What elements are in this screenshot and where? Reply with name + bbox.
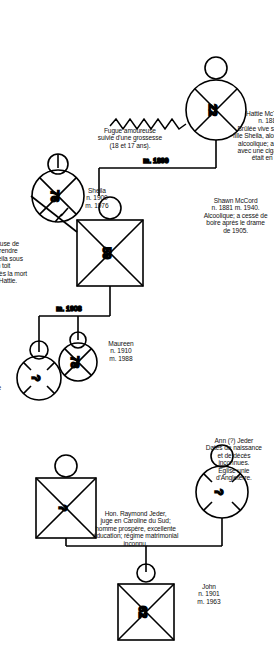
annotation-refus: Refuse de reprendre Sheila sous son toit… — [0, 240, 70, 284]
genogram-canvas: 22 59 m. 1899 — [0, 0, 274, 646]
marriage-label-1899: m. 1899 — [143, 157, 168, 164]
node-sheila-age: 76 — [49, 190, 61, 202]
node-john[interactable] — [118, 564, 174, 640]
node-second-wife-label: ? — [30, 375, 42, 382]
annotation-john: John n. 1901 m. 1963 — [181, 583, 237, 605]
marriage-label-1908: m. 1908 — [56, 305, 81, 312]
genogram-svg: 22 59 m. 1899 — [0, 0, 274, 646]
annotation-fugue: Fugue amoureuse suivie d'une grossesse (… — [80, 127, 180, 149]
annotation-sheila: Sheila n. 1900 m. 1976 — [69, 187, 125, 209]
annotation-maureen: Maureen n. 1910 m. 1988 — [92, 340, 150, 362]
node-maureen-age: 78 — [69, 356, 81, 368]
annotation-hattie: Hattie McTeague McCord n. 1883 m. 1905. … — [202, 110, 274, 162]
node-ann-label: ? — [213, 489, 225, 496]
node-john-age: 62 — [137, 606, 149, 618]
rotated-diagram-layer: 22 59 m. 1899 — [0, 0, 274, 646]
annotation-raymond: Hon. Raymond Jeder, juge en Caroline du … — [66, 510, 206, 547]
annotation-shawn: Shawn McCord n. 1881 m. 1940. Alcoolique… — [176, 197, 274, 234]
node-shawn-age: 59 — [101, 247, 113, 259]
node-shawn[interactable] — [77, 197, 143, 286]
annotation-ann: Ann (?) Jeder Dates de naissance et de d… — [174, 437, 274, 481]
annotation-second-wife: 2ᵉ épouse (?) — [0, 384, 17, 399]
